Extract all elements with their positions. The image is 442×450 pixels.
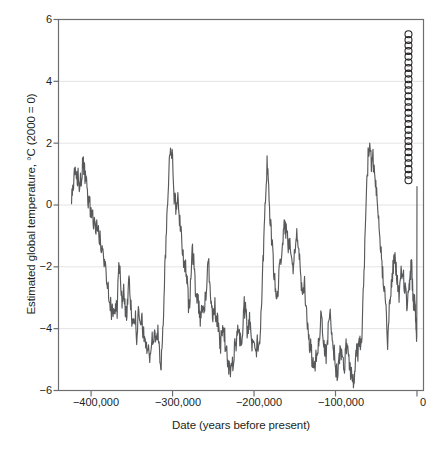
chart-figure: Estimated global temperature, °C (2000 =… xyxy=(0,0,442,450)
x-tick-300k: −300,000 xyxy=(138,396,218,408)
x-tick-100k: −100,000 xyxy=(301,396,381,408)
x-tick-400k: −400,000 xyxy=(56,396,136,408)
x-tick-0: 0 xyxy=(383,396,442,408)
x-tick-200k: −200,000 xyxy=(219,396,299,408)
x-tick-labels: −400,000 −300,000 −200,000 −100,000 0 xyxy=(0,0,442,450)
